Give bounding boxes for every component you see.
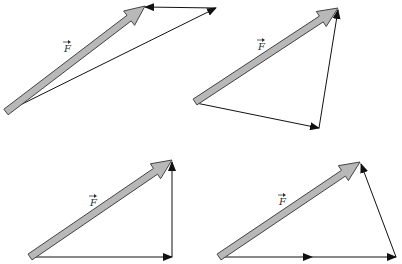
panel-top-left: F bbox=[4, 6, 216, 115]
panel-top-right: F bbox=[193, 8, 338, 128]
force-vector-arrow bbox=[217, 162, 360, 260]
force-label: F bbox=[89, 197, 98, 208]
component-vector-arrow bbox=[6, 8, 216, 112]
force-vector-arrow bbox=[28, 160, 172, 260]
force-label: F bbox=[278, 196, 287, 207]
force-vector-arrow bbox=[4, 6, 145, 115]
force-decomposition-diagram: FFFF bbox=[0, 0, 402, 264]
panel-bottom-right: F bbox=[217, 162, 396, 260]
force-vector-arrow bbox=[193, 8, 338, 105]
force-label: F bbox=[63, 43, 72, 54]
component-vector-arrow bbox=[145, 7, 216, 8]
component-vector-arrow bbox=[361, 164, 396, 257]
component-vector-arrow bbox=[319, 10, 338, 128]
panel-bottom-left: F bbox=[28, 160, 172, 260]
force-label: F bbox=[257, 41, 266, 52]
component-vector-arrow bbox=[196, 103, 319, 128]
